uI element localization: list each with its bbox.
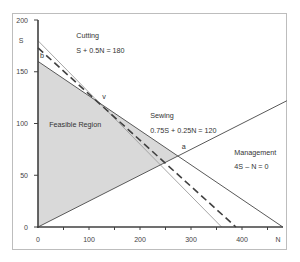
y-tick-label: 100 — [16, 120, 28, 127]
lp-chart: 050100150200S0100200300400NCuttingS + 0.… — [0, 0, 300, 262]
management-label: Management — [234, 148, 276, 157]
x-tick-label: 0 — [36, 236, 40, 243]
x-tick-label: 100 — [83, 236, 95, 243]
y-axis-label: S — [19, 37, 24, 44]
x-axis-label: N — [275, 236, 280, 243]
vertex-a-label: a — [182, 142, 186, 151]
x-tick-label: 400 — [236, 236, 248, 243]
cutting-equation: S + 0.5N = 180 — [76, 46, 124, 55]
cutting-label: Cutting — [76, 31, 99, 40]
y-tick-label: 0 — [24, 224, 28, 231]
management-equation: 4S – N = 0 — [234, 162, 268, 171]
vertex-b-label: b — [40, 51, 44, 60]
y-tick-label: 200 — [16, 17, 28, 24]
feasible-region-label: Feasible Region — [49, 120, 101, 129]
x-tick-label: 300 — [185, 236, 197, 243]
y-tick-label: 150 — [16, 68, 28, 75]
vertex-v-label: v — [102, 92, 106, 101]
feasible-region — [38, 61, 178, 227]
sewing-equation: 0.75S + 0.25N = 120 — [150, 126, 216, 135]
y-tick-label: 50 — [20, 172, 28, 179]
sewing-label: Sewing — [150, 111, 174, 120]
x-tick-label: 200 — [134, 236, 146, 243]
